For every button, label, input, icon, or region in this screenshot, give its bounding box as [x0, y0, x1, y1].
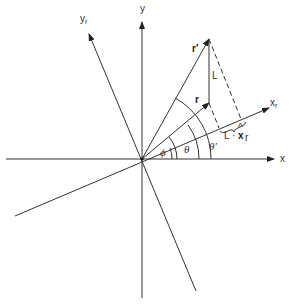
- theta-prime-label: θ′: [209, 140, 217, 152]
- r-prime-vector: [142, 39, 209, 159]
- r-projection-dashed: [209, 103, 219, 128]
- x-axis-label: x: [280, 153, 285, 164]
- phi-label: ϕ: [160, 146, 166, 158]
- origin-point: [140, 157, 143, 160]
- r-label: r: [195, 94, 199, 105]
- svg-text:^: ^: [238, 122, 243, 133]
- r-prime-label: r′: [192, 43, 199, 54]
- L-label: L: [212, 70, 218, 81]
- svg-text:·: ·: [232, 130, 235, 141]
- y-axis-label: y: [140, 3, 145, 14]
- svg-text:L: L: [224, 130, 230, 141]
- theta-label: θ: [184, 143, 190, 155]
- yr-axis-label: yr: [80, 13, 88, 25]
- svg-text:r: r: [245, 132, 249, 143]
- xr-axis-label: xr: [270, 97, 278, 109]
- theta-prime-arc: [175, 98, 211, 159]
- rotation-diagram: y x yr xr r r′ L ϕ θ θ′ L · x ^ r: [0, 0, 291, 304]
